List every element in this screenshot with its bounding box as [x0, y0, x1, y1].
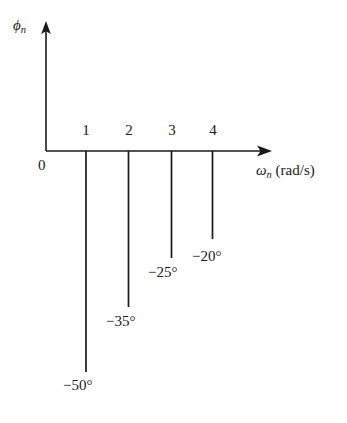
value-label-3: −25°	[148, 265, 177, 280]
x-axis-label-units: (rad/s)	[272, 162, 315, 178]
y-axis-label-variable: ϕ	[13, 17, 21, 33]
value-label-2: −35°	[106, 314, 135, 329]
value-label-1: −50°	[63, 378, 92, 393]
value-label-4: −20°	[192, 249, 221, 264]
origin-label: 0	[38, 158, 46, 173]
tick-label-2: 2	[125, 123, 133, 138]
tick-label-3: 3	[168, 123, 176, 138]
phase-spectrum-figure: ϕn ωn (rad/s) 0 1 2 3 4 −50° −35° −25° −…	[0, 0, 347, 423]
y-axis-label-subscript: n	[21, 24, 26, 35]
plot-canvas	[0, 0, 347, 423]
tick-label-4: 4	[209, 123, 217, 138]
y-axis-label: ϕn	[13, 18, 26, 35]
tick-label-1: 1	[82, 123, 90, 138]
x-axis-label-variable: ω	[256, 162, 267, 178]
x-axis-label: ωn (rad/s)	[256, 163, 315, 180]
